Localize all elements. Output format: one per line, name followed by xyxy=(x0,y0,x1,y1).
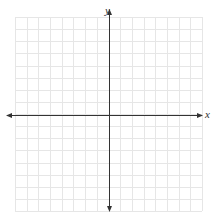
x-axis-left-arrow-icon xyxy=(6,113,12,118)
y-axis-label: y xyxy=(105,5,110,16)
grid-lines xyxy=(15,17,203,212)
coordinate-plane xyxy=(0,0,216,217)
axes xyxy=(6,9,203,212)
x-axis-label: x xyxy=(205,109,210,120)
